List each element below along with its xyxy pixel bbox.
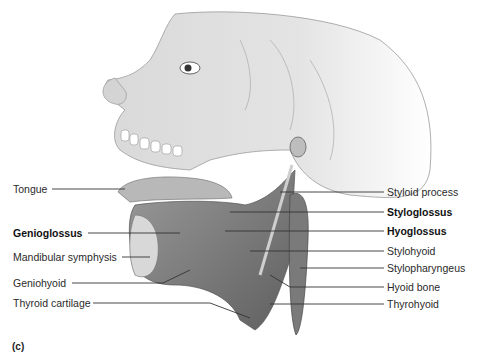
label-geniohyoid: Geniohyoid (13, 277, 66, 289)
panel-label: (c) (12, 341, 24, 352)
tongue (118, 177, 232, 202)
label-genioglossus: Genioglossus (13, 227, 82, 239)
label-thyroid-cartilage: Thyroid cartilage (13, 297, 91, 309)
label-tongue: Tongue (13, 183, 47, 195)
label-stylohyoid: Stylohyoid (387, 245, 435, 257)
label-hyoid-bone: Hyoid bone (387, 281, 440, 293)
label-thyrohyoid: Thyrohyoid (387, 298, 439, 310)
label-hyoglossus: Hyoglossus (387, 225, 447, 237)
label-styloid-process: Styloid process (387, 186, 458, 198)
skull (105, 12, 431, 198)
label-styloglossus: Styloglossus (387, 206, 452, 218)
label-mandibular-symphysis: Mandibular symphysis (13, 251, 117, 263)
label-stylopharyngeus: Stylopharyngeus (387, 262, 465, 274)
stylopharyngeus-muscle (289, 193, 308, 335)
